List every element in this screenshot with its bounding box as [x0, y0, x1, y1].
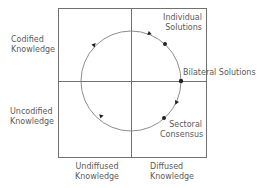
label-line: Codified: [11, 35, 55, 45]
label-line: Knowledge: [10, 117, 54, 127]
individual-solutions-dot: [163, 42, 167, 46]
label-line: Solutions: [156, 23, 202, 33]
label-line: Uncodified: [10, 107, 54, 117]
label-line: Individual: [156, 13, 202, 23]
column-label-undiffused: Undiffused Knowledge: [75, 162, 119, 182]
point-label-bilateral-solutions: Bilateral Solutions: [183, 68, 256, 78]
arrow-icon: [98, 113, 104, 119]
label-line: Consensus: [160, 130, 202, 140]
label-line: Bilateral Solutions: [183, 68, 256, 78]
point-label-sectoral-consensus: Sectoral Consensus: [160, 120, 202, 140]
column-label-diffused: Diffused Knowledge: [150, 162, 194, 182]
row-label-codified: Codified Knowledge: [11, 35, 55, 55]
label-line: Undiffused: [75, 162, 119, 172]
quadrant-diagram: [0, 0, 260, 188]
arrow-icon: [173, 100, 179, 105]
label-line: Sectoral: [160, 120, 202, 130]
label-line: Diffused: [150, 162, 194, 172]
bilateral-solutions-dot: [179, 79, 183, 83]
label-line: Knowledge: [150, 172, 194, 182]
label-line: Knowledge: [75, 172, 119, 182]
point-label-individual-solutions: Individual Solutions: [156, 13, 202, 33]
row-label-uncodified: Uncodified Knowledge: [10, 107, 54, 127]
label-line: Knowledge: [11, 45, 55, 55]
